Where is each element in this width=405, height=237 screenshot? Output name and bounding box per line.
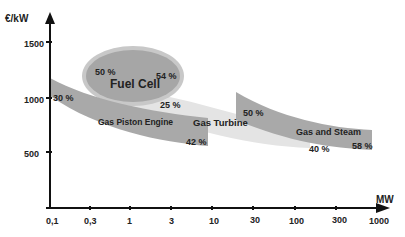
- efficiency-label: 30 %: [53, 93, 74, 103]
- x-tick: 10: [209, 216, 219, 226]
- x-tick: 1: [127, 216, 132, 226]
- efficiency-label: 25 %: [160, 100, 181, 110]
- x-tick: 300: [332, 215, 347, 225]
- efficiency-label: 50 %: [95, 67, 116, 77]
- efficiency-label: 50 %: [243, 108, 264, 118]
- cost-vs-power-chart: €/kW MW 1500 1000 500 0,1 0,3 1 3 10 30 …: [0, 0, 405, 237]
- y-tick-1500: 1500: [24, 39, 44, 49]
- y-axis-label: €/kW: [5, 13, 29, 24]
- x-axis-label: MW: [376, 194, 394, 205]
- efficiency-label: 54 %: [156, 71, 177, 81]
- x-tick: 0,3: [84, 216, 97, 226]
- gas-turbine-label: Gas Turbine: [193, 117, 248, 128]
- efficiency-label: 40 %: [309, 144, 330, 154]
- y-tick-500: 500: [24, 149, 39, 159]
- x-tick: 0,1: [46, 216, 59, 226]
- x-tick: 30: [250, 215, 260, 225]
- x-tick: 1000: [369, 216, 389, 226]
- gas-and-steam-label: Gas and Steam: [296, 127, 361, 137]
- fuel-cell-label: Fuel Cell: [110, 77, 160, 91]
- x-tick: 3: [169, 216, 174, 226]
- efficiency-label: 58 %: [352, 141, 373, 151]
- gas-piston-engine-label: Gas Piston Engine: [98, 117, 173, 127]
- y-axis-arrow: [45, 12, 55, 24]
- y-tick-1000: 1000: [24, 95, 44, 105]
- efficiency-label: 42 %: [186, 137, 207, 147]
- x-tick: 100: [289, 216, 304, 226]
